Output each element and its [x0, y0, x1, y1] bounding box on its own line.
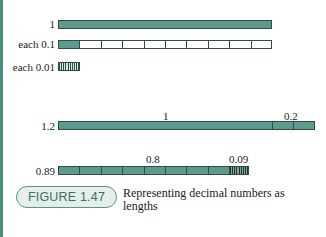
unit-bar-fill — [59, 21, 271, 28]
tenth-segment — [166, 167, 187, 174]
tenth-segment — [123, 167, 144, 174]
tenth-cell — [145, 41, 166, 48]
tenth-segment — [209, 167, 230, 174]
tenth-cell — [187, 41, 208, 48]
tenth-cell — [123, 41, 144, 48]
tenth-segment — [273, 122, 294, 129]
tenth-segment — [145, 167, 166, 174]
tenth-cell — [102, 41, 123, 48]
tenth-cell — [209, 41, 230, 48]
row-label-1-2: 1.2 — [20, 120, 55, 132]
tenth-cell — [230, 41, 251, 48]
left-accent-rule — [0, 0, 3, 237]
segment-label-0-8: 0.8 — [146, 153, 160, 165]
figure-label: FIGURE 1.47 — [16, 186, 117, 208]
tenth-cell — [252, 41, 272, 48]
row-label-1: 1 — [20, 18, 55, 30]
whole-segment — [59, 122, 273, 129]
hundredths-segment — [230, 167, 249, 174]
hundredths-hatch — [59, 63, 79, 70]
tenth-segment — [102, 167, 123, 174]
tenths-bar — [58, 40, 272, 49]
tenth-segment — [59, 167, 80, 174]
row-label-tenths: each 0.1 — [8, 38, 55, 50]
segment-label-0-09: 0.09 — [229, 153, 248, 165]
hundredths-bar — [58, 62, 80, 71]
unit-bar — [58, 20, 272, 29]
bar-1-2 — [58, 121, 315, 130]
row-label-hundredths: each 0.01 — [0, 61, 55, 73]
row-label-0-89: 0.89 — [8, 165, 55, 177]
bar-0-89 — [58, 166, 249, 175]
tenth-segment — [187, 167, 208, 174]
figure-caption: Representing decimal numbers as lengths — [123, 187, 318, 213]
tenth-cell — [80, 41, 101, 48]
tenth-cell — [166, 41, 187, 48]
tenth-cell-shaded — [59, 41, 80, 48]
tenth-segment — [80, 167, 101, 174]
tenth-segment — [294, 122, 315, 129]
